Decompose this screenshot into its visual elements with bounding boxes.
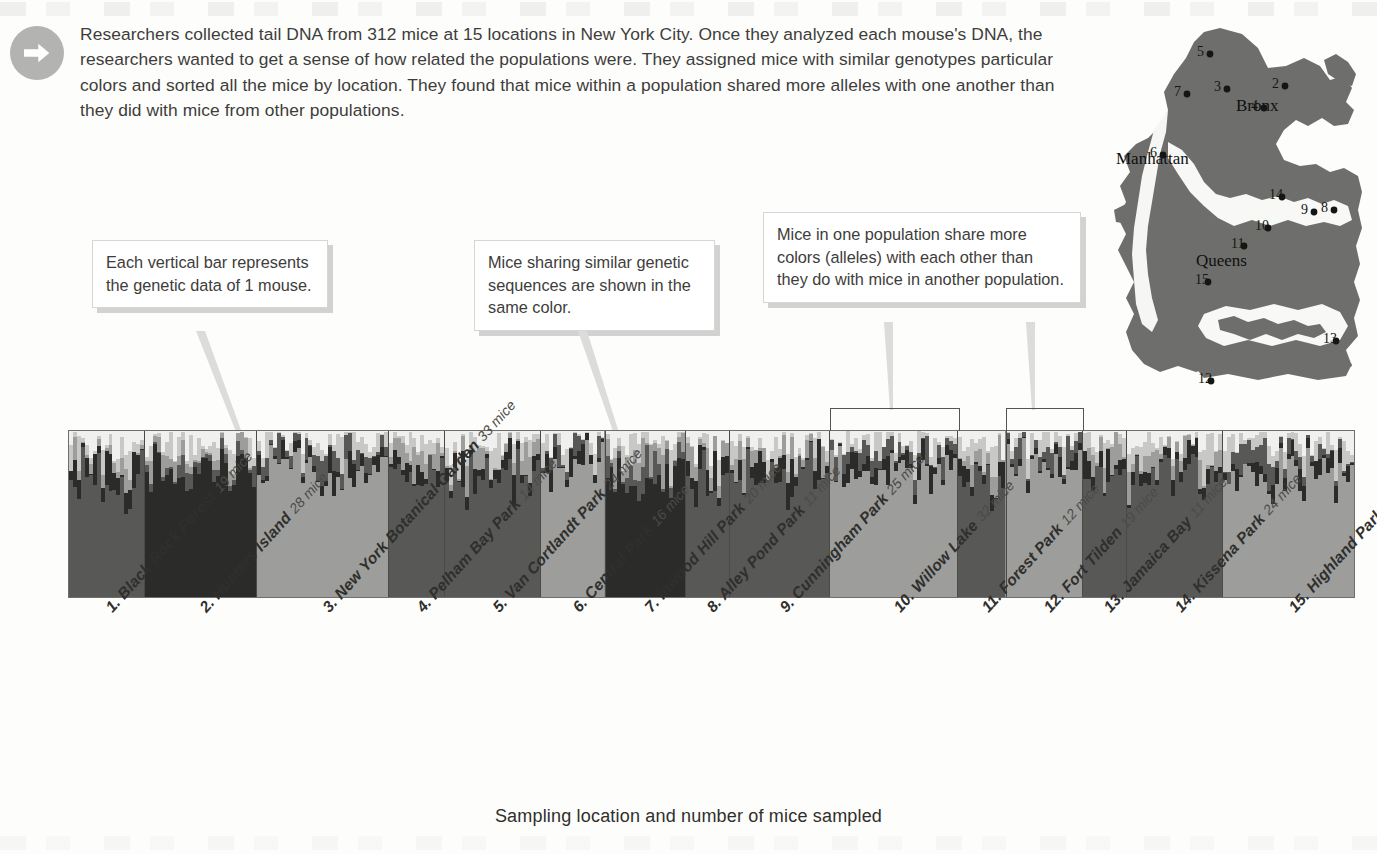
map-location-number: 11 bbox=[1231, 236, 1244, 251]
map-location-number: 7 bbox=[1174, 84, 1181, 99]
intro-block: Researchers collected tail DNA from 312 … bbox=[10, 22, 1090, 124]
mouse-bar bbox=[384, 431, 388, 597]
mouse-bar bbox=[953, 431, 957, 597]
map-location-number: 13 bbox=[1323, 331, 1337, 346]
map-location-number: 12 bbox=[1198, 371, 1212, 386]
ancestry-segment bbox=[1350, 455, 1354, 462]
arrow-right-circle-icon bbox=[10, 26, 64, 80]
ancestry-segment bbox=[725, 456, 729, 472]
x-axis-caption: Sampling location and number of mice sam… bbox=[0, 806, 1377, 827]
ancestry-segment bbox=[1078, 443, 1082, 450]
ancestry-segment bbox=[681, 452, 685, 459]
ancestry-segment bbox=[825, 451, 829, 462]
ancestry-segment bbox=[440, 431, 444, 447]
ancestry-segment bbox=[825, 431, 829, 451]
ancestry-segment bbox=[953, 431, 957, 438]
callout-bar-meaning: Each vertical bar represents the genetic… bbox=[92, 240, 328, 308]
intro-paragraph: Researchers collected tail DNA from 312 … bbox=[80, 22, 1090, 124]
map-location-number: 8 bbox=[1321, 200, 1328, 215]
map-location-dot bbox=[1160, 152, 1167, 159]
map-location-number: 9 bbox=[1301, 202, 1308, 217]
ancestry-segment bbox=[1078, 432, 1082, 443]
map-location-dot bbox=[1184, 91, 1191, 98]
ancestry-segment bbox=[953, 444, 957, 453]
ancestry-segment bbox=[384, 432, 388, 448]
ancestry-segment bbox=[953, 458, 957, 597]
ancestry-segment bbox=[1218, 450, 1222, 468]
x-axis-labels: 1. Black Rock Forest19 mice2. Hunters Is… bbox=[0, 598, 1377, 808]
ancestry-segment bbox=[252, 431, 256, 458]
structure-plot bbox=[68, 430, 1355, 598]
ancestry-segment bbox=[1218, 434, 1222, 450]
population-bracket bbox=[1006, 408, 1084, 431]
ancestry-segment bbox=[384, 447, 388, 456]
page-ghost-bottom bbox=[0, 836, 1377, 850]
ancestry-segment bbox=[252, 466, 256, 487]
ancestry-segment bbox=[1122, 438, 1126, 457]
structure-plot-canvas bbox=[68, 430, 1355, 598]
map-location-dot bbox=[1331, 207, 1338, 214]
ancestry-segment bbox=[1122, 459, 1126, 469]
ancestry-segment bbox=[681, 433, 685, 451]
ancestry-segment bbox=[725, 431, 729, 443]
map-location-number: 4 bbox=[1251, 98, 1258, 113]
ancestry-segment bbox=[536, 439, 540, 454]
map-location-dot bbox=[1311, 209, 1318, 216]
map-location-dot bbox=[1224, 86, 1231, 93]
map-location-dot bbox=[1207, 51, 1214, 58]
ancestry-segment bbox=[1350, 431, 1354, 455]
map-location-dot bbox=[1282, 83, 1289, 90]
nyc-map-inset: BronxManhattanQueens 2345678910111213141… bbox=[1108, 14, 1370, 404]
map-location-number: 6 bbox=[1150, 145, 1157, 160]
map-location-number: 2 bbox=[1272, 76, 1279, 91]
callout-color-meaning: Mice sharing similar genetic sequences a… bbox=[474, 240, 715, 331]
map-location-number: 5 bbox=[1197, 44, 1204, 59]
map-location-number: 15 bbox=[1195, 272, 1209, 287]
map-borough-label: Queens bbox=[1196, 251, 1247, 270]
ancestry-segment bbox=[725, 443, 729, 456]
callout-population-sharing: Mice in one population share more colors… bbox=[763, 212, 1081, 303]
map-location-dot bbox=[1261, 105, 1268, 112]
map-location-number: 3 bbox=[1214, 79, 1221, 94]
ancestry-segment bbox=[1001, 431, 1005, 460]
ancestry-segment bbox=[1122, 431, 1126, 438]
population-bracket bbox=[830, 408, 960, 431]
ancestry-segment bbox=[140, 431, 144, 440]
map-location-number: 14 bbox=[1269, 187, 1283, 202]
mouse-bar bbox=[1350, 431, 1354, 597]
map-location-number: 10 bbox=[1255, 218, 1269, 233]
